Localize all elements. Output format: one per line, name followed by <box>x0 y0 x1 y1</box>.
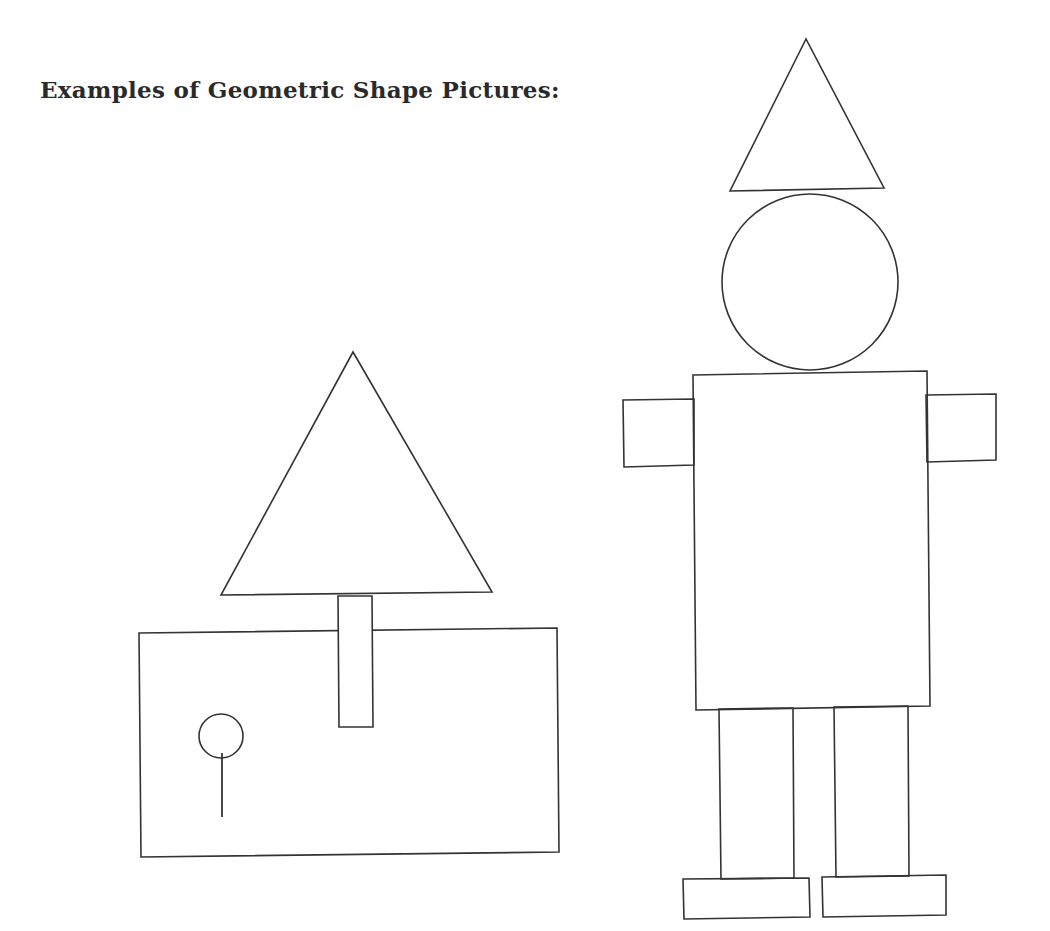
left-leg-rectangle <box>719 708 794 879</box>
left-arm-rectangle <box>623 399 694 467</box>
hat-triangle <box>730 39 884 191</box>
body-rectangle <box>693 371 930 710</box>
worksheet-page: Examples of Geometric Shape Pictures: <box>0 0 1050 931</box>
right-arm-rectangle <box>926 394 996 462</box>
shape-pictures-canvas <box>0 0 1050 931</box>
tree-top-triangle <box>221 352 492 595</box>
flower-1 <box>199 714 243 817</box>
flower-circle <box>199 714 243 758</box>
house-tree-picture <box>0 0 559 857</box>
robot-person-picture <box>623 39 996 919</box>
right-leg-rectangle <box>834 706 909 877</box>
tree-trunk-rectangle <box>338 596 373 727</box>
left-foot-rectangle <box>683 878 810 919</box>
head-circle <box>722 194 898 370</box>
right-foot-rectangle <box>822 875 946 917</box>
